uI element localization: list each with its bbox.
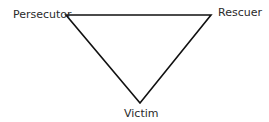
triangle-shape — [66, 15, 211, 103]
node-label-persecutor: Persecutor — [13, 9, 72, 21]
node-label-rescuer: Rescuer — [218, 7, 262, 19]
node-label-victim: Victim — [124, 108, 158, 120]
